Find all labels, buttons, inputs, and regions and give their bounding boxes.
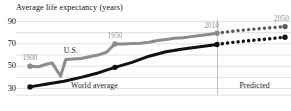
plot-area bbox=[0, 0, 291, 111]
annotation-predicted: Predicted bbox=[239, 81, 269, 90]
annotation-2050: 2050 bbox=[274, 15, 289, 23]
annotation-1950: 1950 bbox=[108, 32, 123, 40]
annotation-2010: 2010 bbox=[204, 22, 219, 30]
data-series-group bbox=[30, 27, 285, 87]
life-expectancy-chart: Average life expectancy (years) 90 70 50… bbox=[0, 0, 291, 111]
annotation-us-series: U.S. bbox=[64, 46, 78, 55]
annotation-world-average: World average bbox=[71, 81, 118, 90]
annotation-1900: 1900 bbox=[23, 54, 38, 62]
